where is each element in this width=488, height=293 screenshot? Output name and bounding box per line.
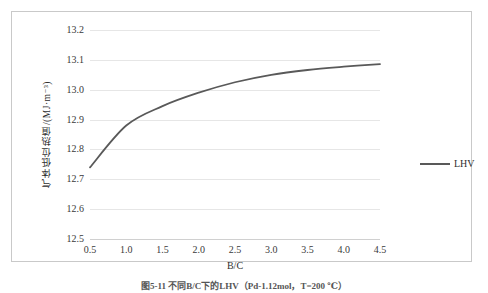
x-tick-label: 0.5 [84, 245, 97, 255]
series-line-lhv [90, 64, 380, 167]
x-tick-label: 3.0 [265, 245, 278, 255]
x-axis-title: B/C [90, 260, 380, 271]
legend-line-icon [420, 163, 450, 165]
plot-area: 12.512.612.712.812.913.013.113.2 0.51.01… [90, 30, 380, 239]
y-tick-label: 13.1 [67, 55, 85, 65]
figure-caption: 图5-11 不同B/C下的LHV（Pd-1.12mol，T=200 ℃） [0, 279, 488, 292]
gridline [90, 239, 380, 240]
y-axis-title-text: 气体低位热值/(MJ·m⁻³) [40, 81, 54, 188]
chart-legend: LHV [420, 159, 475, 169]
x-tick-label: 2.0 [193, 245, 206, 255]
y-tick-label: 12.7 [67, 174, 85, 184]
y-tick-label: 13.2 [67, 25, 85, 35]
x-tick-label: 4.5 [374, 245, 387, 255]
series-plot [90, 30, 380, 239]
x-tick-label: 1.0 [120, 245, 133, 255]
legend-item-label: LHV [454, 159, 475, 169]
x-tick-label: 1.5 [156, 245, 169, 255]
y-tick-label: 12.5 [67, 234, 85, 244]
x-tick-label: 2.5 [229, 245, 242, 255]
x-tick-label: 4.0 [338, 245, 351, 255]
figure-frame: 气体低位热值/(MJ·m⁻³) 12.512.612.712.812.913.0… [11, 11, 472, 262]
y-tick-label: 12.6 [67, 204, 85, 214]
x-axis-title-text: B/C [227, 260, 243, 271]
y-tick-label: 13.0 [67, 85, 85, 95]
y-tick-label: 12.9 [67, 115, 85, 125]
y-tick-label: 12.8 [67, 144, 85, 154]
x-tick-label: 3.5 [301, 245, 314, 255]
y-axis-title: 气体低位热值/(MJ·m⁻³) [40, 30, 54, 239]
